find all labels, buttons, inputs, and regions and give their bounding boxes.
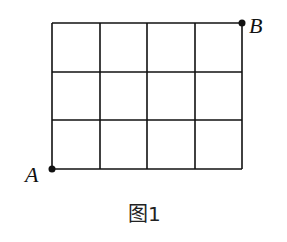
point-a-dot bbox=[49, 166, 56, 173]
point-b-dot bbox=[239, 20, 246, 27]
point-a-label: A bbox=[23, 162, 39, 187]
point-b-label: B bbox=[249, 13, 262, 38]
figure-caption: 图1 bbox=[128, 202, 161, 226]
grid-diagram: A B 图1 bbox=[0, 0, 287, 242]
grid-lines bbox=[52, 23, 242, 169]
